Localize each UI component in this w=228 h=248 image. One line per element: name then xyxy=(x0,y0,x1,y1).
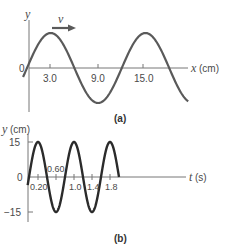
velocity-label: v xyxy=(58,12,64,26)
caption-b: (b) xyxy=(114,233,127,244)
y-axis-unit-b: (cm) xyxy=(10,124,30,135)
wave-diagram: v y 0 3.0 9.0 15.0 x (cm) (a) y (cm) 15 … xyxy=(0,0,228,248)
x-tick-label: 15.0 xyxy=(134,73,154,84)
t-tick-label: 1.4 xyxy=(87,182,100,192)
y-tick-label: 15 xyxy=(9,137,21,148)
t-tick-label-above: 0.60 xyxy=(47,164,65,174)
origin-label-b: 0 xyxy=(17,172,23,183)
panel-a: v y 0 3.0 9.0 15.0 x (cm) (a) xyxy=(19,7,219,124)
y-axis-var-b: y xyxy=(1,122,8,136)
y-tick-label: −15 xyxy=(4,207,21,218)
origin-label-a: 0 xyxy=(19,63,25,74)
y-axis-label-a: y xyxy=(24,7,31,21)
panel-b: y (cm) 15 −15 0 0.60 0.20 1.0 1.4 1.8 t … xyxy=(1,122,207,244)
x-tick-label: 3.0 xyxy=(43,73,57,84)
x-axis-var-a: x xyxy=(190,61,197,75)
t-axis-unit-b: (s) xyxy=(195,172,207,183)
t-tick-label: 1.0 xyxy=(69,182,82,192)
velocity-arrow-icon xyxy=(52,25,76,32)
t-axis-var-b: t xyxy=(189,170,193,184)
t-tick-label: 0.20 xyxy=(30,182,48,192)
x-tick-label: 9.0 xyxy=(91,73,105,84)
caption-a: (a) xyxy=(114,113,126,124)
t-tick-label: 1.8 xyxy=(105,182,118,192)
x-axis-unit-a: (cm) xyxy=(199,63,219,74)
